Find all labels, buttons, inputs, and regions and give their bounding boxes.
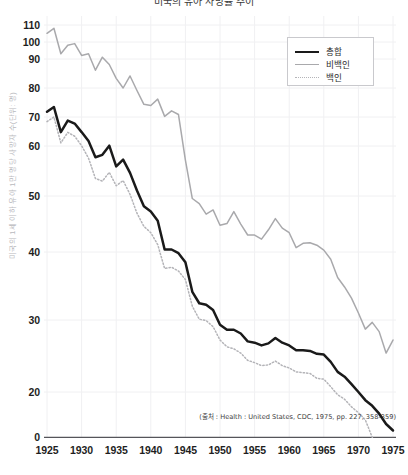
chart-title: 미국의 유아 사망률 추이 [0, 0, 408, 8]
x-axis-tick-labels: 1925193019351940194519501955196019651970… [44, 444, 396, 464]
legend-label-white: 백인 [326, 71, 342, 83]
legend-swatch-total-icon [295, 46, 319, 56]
y-tick-label: 20 [6, 386, 40, 398]
y-tick-label: 100 [6, 36, 40, 48]
legend-swatch-white-icon [295, 72, 319, 82]
chart-screenshot: 미국의 유아 사망률 추이 미국의 1세 이하 유아 1만 명당 사망자 수(단… [0, 0, 408, 475]
y-tick-label: 40 [6, 246, 40, 258]
legend-swatch-nonwhite-icon [295, 59, 319, 69]
y-tick-label: 50 [6, 190, 40, 202]
legend-item-nonwhite[interactable]: 비백인 [295, 57, 366, 70]
y-tick-label: 60 [6, 140, 40, 152]
x-tick-label: 1975 [370, 444, 408, 456]
source-note: (출처 : Health : United States, CDC, 1975,… [199, 411, 396, 421]
y-tick-label: 30 [6, 314, 40, 326]
legend-label-nonwhite: 비백인 [326, 58, 350, 70]
y-tick-label: 0 [6, 431, 40, 443]
chart-legend: 총합 비백인 백인 [287, 37, 374, 86]
legend-item-white[interactable]: 백인 [295, 70, 366, 83]
legend-item-total[interactable]: 총합 [295, 44, 366, 57]
y-tick-label: 90 [6, 53, 40, 65]
y-tick-label: 110 [6, 19, 40, 31]
legend-label-total: 총합 [326, 45, 342, 57]
y-axis-tick-labels: 11010090807060504030200 [4, 16, 40, 438]
y-tick-label: 80 [6, 82, 40, 94]
y-tick-label: 70 [6, 111, 40, 123]
